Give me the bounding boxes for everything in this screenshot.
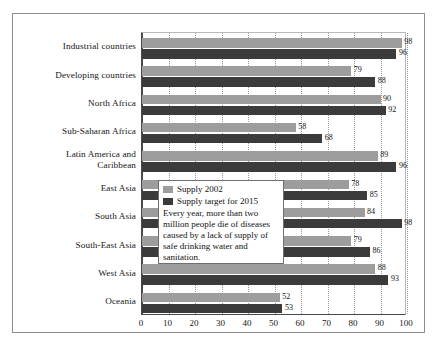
bar-value-label: 98 — [402, 37, 413, 47]
bar-row: 9092 — [142, 91, 405, 119]
bar-value-label: 93 — [388, 274, 399, 284]
bar-supply-2002 — [142, 151, 378, 161]
x-tick-label-10: 10 — [163, 317, 172, 329]
bar-value-label: 88 — [375, 76, 386, 86]
category-label: North Africa — [31, 98, 136, 109]
legend-entries: Supply 2002Supply target for 2015 — [163, 184, 279, 207]
bar-value-label: 90 — [381, 94, 392, 104]
bar-supply-2002 — [142, 264, 375, 274]
x-tick-label-80: 80 — [349, 317, 358, 329]
category-label-line: South-East Asia — [31, 240, 136, 251]
bar-row: 5868 — [142, 119, 405, 147]
category-label-line: Latin America and — [31, 149, 136, 160]
bar-value-label: 58 — [296, 122, 307, 132]
bar-supply-2002 — [142, 66, 351, 76]
bar-supply-target-2015 — [142, 134, 322, 144]
legend-label: Supply 2002 — [177, 184, 223, 195]
bar-row: 5253 — [142, 289, 405, 317]
category-label-line: Developing countries — [31, 70, 136, 81]
category-label-line: Sub-Saharan Africa — [31, 126, 136, 137]
bar-value-label: 96 — [396, 48, 407, 58]
legend-swatch-icon — [163, 186, 173, 193]
category-label: South Asia — [31, 211, 136, 222]
category-label: South-East Asia — [31, 240, 136, 251]
bar-value-label: 84 — [365, 207, 376, 217]
category-axis-labels: Industrial countriesDeveloping countries… — [31, 32, 136, 315]
bar-supply-2002 — [142, 123, 296, 133]
x-tick-label-40: 40 — [243, 317, 252, 329]
x-tick-label-0: 0 — [139, 317, 144, 329]
x-tick-label-90: 90 — [375, 317, 384, 329]
bar-value-label: 92 — [386, 105, 397, 115]
bar-value-label: 85 — [367, 190, 378, 200]
bar-supply-target-2015 — [142, 49, 396, 59]
legend-entry: Supply 2002 — [163, 184, 279, 195]
bar-row: 8996 — [142, 148, 405, 176]
bar-row: 7988 — [142, 63, 405, 91]
category-label: Sub-Saharan Africa — [31, 126, 136, 137]
category-label-line: Oceania — [31, 296, 136, 307]
plot-area: 9896798890925868899678858498798688935253 — [141, 32, 406, 315]
bar-value-label: 78 — [349, 179, 360, 189]
bar-supply-2002 — [142, 293, 280, 303]
legend-label: Supply target for 2015 — [177, 196, 258, 207]
category-label-line: South Asia — [31, 211, 136, 222]
x-tick-label-30: 30 — [216, 317, 225, 329]
legend-box: Supply 2002Supply target for 2015 Every … — [158, 180, 284, 264]
category-label: Developing countries — [31, 70, 136, 81]
bar-supply-2002 — [142, 38, 402, 48]
bar-supply-2002 — [142, 95, 381, 105]
category-label: Industrial countries — [31, 41, 136, 52]
x-tick-label-60: 60 — [296, 317, 305, 329]
bar-value-label: 88 — [375, 263, 386, 273]
category-label: West Asia — [31, 268, 136, 279]
legend-entry: Supply target for 2015 — [163, 196, 279, 207]
category-label: Latin America andCaribbean — [31, 149, 136, 170]
bar-value-label: 98 — [402, 218, 413, 228]
bar-supply-target-2015 — [142, 77, 375, 87]
bar-row: 8893 — [142, 261, 405, 289]
bar-supply-target-2015 — [142, 304, 282, 314]
bar-value-label: 86 — [370, 246, 381, 256]
bar-value-label: 96 — [396, 161, 407, 171]
category-label-line: Industrial countries — [31, 41, 136, 52]
bar-supply-target-2015 — [142, 275, 388, 285]
gridline-100 — [407, 33, 409, 314]
legend-note: Every year, more than two million people… — [163, 208, 279, 264]
bar-supply-target-2015 — [142, 162, 396, 172]
x-tick-label-70: 70 — [322, 317, 331, 329]
x-tick-label-50: 50 — [269, 317, 278, 329]
bar-value-label: 68 — [322, 133, 333, 143]
x-tick-label-100: 100 — [399, 317, 413, 329]
category-label-line: East Asia — [31, 183, 136, 194]
category-label: Oceania — [31, 296, 136, 307]
bar-value-label: 79 — [351, 65, 362, 75]
bar-row: 9896 — [142, 35, 405, 63]
figure-frame: Industrial countriesDeveloping countries… — [12, 13, 425, 333]
bar-value-label: 53 — [282, 303, 293, 313]
category-label-line: West Asia — [31, 268, 136, 279]
bar-value-label: 89 — [378, 150, 389, 160]
category-label: East Asia — [31, 183, 136, 194]
bar-rows: 9896798890925868899678858498798688935253 — [142, 33, 405, 314]
bar-supply-target-2015 — [142, 106, 386, 116]
category-label-line: Caribbean — [31, 160, 136, 171]
legend-swatch-icon — [163, 198, 173, 205]
bar-value-label: 79 — [351, 235, 362, 245]
bar-value-label: 52 — [280, 292, 291, 302]
x-axis-tick-labels: 0102030405060708090100 — [141, 317, 406, 331]
category-label-line: North Africa — [31, 98, 136, 109]
x-tick-label-20: 20 — [190, 317, 199, 329]
